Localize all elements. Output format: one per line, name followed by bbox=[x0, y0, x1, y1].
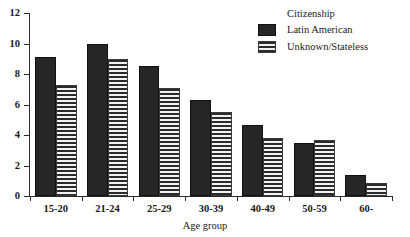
y-axis-tick-label: 12 bbox=[0, 8, 20, 18]
bar-60--unknown-stateless bbox=[366, 183, 387, 196]
bar-50-59-unknown-stateless bbox=[314, 140, 335, 196]
y-axis-tick-label: 8 bbox=[0, 69, 20, 79]
bar-30-39-latin-american bbox=[190, 100, 211, 196]
bar-40-49-unknown-stateless bbox=[263, 138, 284, 196]
legend-label-latin-american: Latin American bbox=[287, 24, 353, 36]
x-axis-tick-label: 30-39 bbox=[185, 203, 237, 214]
x-axis-tick bbox=[392, 196, 393, 201]
x-axis-tick bbox=[237, 196, 238, 201]
x-axis-tick-label: 50-59 bbox=[289, 203, 341, 214]
y-axis-tick-label: 10 bbox=[0, 39, 20, 49]
x-axis-tick-label: 25-29 bbox=[133, 203, 185, 214]
x-axis-tick-label: 60- bbox=[340, 203, 392, 214]
x-axis-tick-label: 21-24 bbox=[82, 203, 134, 214]
bar-chart: 024681012 15-2021-2425-2930-3940-4950-59… bbox=[0, 0, 410, 237]
y-axis-tick-label: 2 bbox=[0, 161, 20, 171]
x-axis-line bbox=[29, 196, 393, 197]
bar-15-20-latin-american bbox=[35, 57, 56, 196]
x-axis-tick bbox=[340, 196, 341, 201]
bar-25-29-latin-american bbox=[139, 66, 160, 196]
bar-25-29-unknown-stateless bbox=[159, 88, 180, 196]
x-axis-tick bbox=[289, 196, 290, 201]
x-axis-tick bbox=[133, 196, 134, 201]
x-axis-title: Age group bbox=[0, 220, 410, 231]
bar-40-49-latin-american bbox=[242, 125, 263, 196]
legend-title: Citizenship bbox=[287, 8, 335, 19]
x-axis-tick-label: 40-49 bbox=[237, 203, 289, 214]
x-axis-tick-label: 15-20 bbox=[30, 203, 82, 214]
bar-21-24-unknown-stateless bbox=[108, 59, 129, 196]
x-axis-tick bbox=[82, 196, 83, 201]
x-axis-tick bbox=[185, 196, 186, 201]
striped-swatch bbox=[258, 41, 276, 53]
legend-label-unknown-stateless: Unknown/Stateless bbox=[287, 41, 368, 53]
bar-50-59-latin-american bbox=[294, 143, 315, 196]
bar-30-39-unknown-stateless bbox=[211, 112, 232, 196]
y-axis-tick-label: 4 bbox=[0, 130, 20, 140]
bar-21-24-latin-american bbox=[87, 44, 108, 196]
y-axis-tick-label: 6 bbox=[0, 100, 20, 110]
solid-black-swatch bbox=[258, 24, 276, 36]
y-axis-tick-label: 0 bbox=[0, 191, 20, 201]
x-axis-tick bbox=[30, 196, 31, 201]
bar-60--latin-american bbox=[345, 175, 366, 196]
bar-15-20-unknown-stateless bbox=[56, 85, 77, 196]
